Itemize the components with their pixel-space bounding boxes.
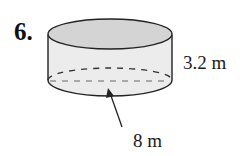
cylinder-drawing — [0, 0, 249, 156]
top-face — [48, 19, 172, 49]
diameter-label: 8 m — [133, 131, 162, 150]
cylinder-figure: 6. 3.2 m 8 m — [0, 0, 249, 156]
diameter-arrow-shaft — [110, 93, 122, 127]
height-label: 3.2 m — [183, 53, 226, 72]
